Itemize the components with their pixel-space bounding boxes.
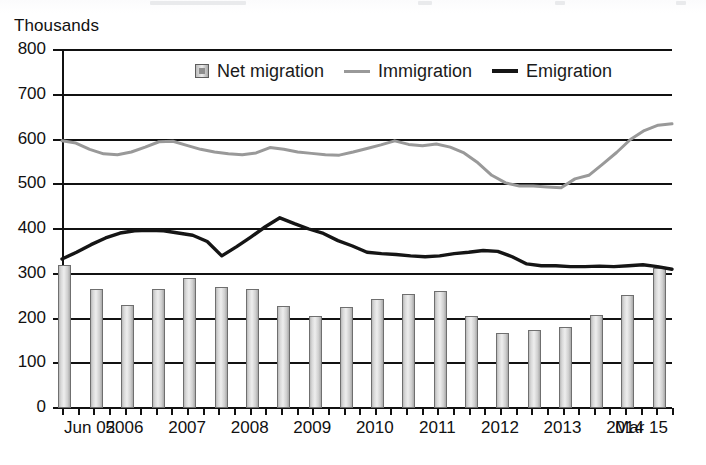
x-tick-q31 [547, 408, 549, 415]
x-tick-q21 [390, 408, 392, 415]
x-tick-q8 [187, 408, 189, 415]
x-tick-q2 [93, 408, 95, 415]
y-axis-unit-label: Thousands [14, 16, 99, 36]
x-axis-label-2012: 2012 [481, 418, 519, 438]
x-tick-q9 [203, 408, 205, 415]
line-immigration [62, 124, 672, 188]
y-tick-700 [53, 94, 62, 96]
plot-area [62, 50, 672, 408]
x-axis-label-2007: 2007 [168, 418, 206, 438]
x-tick-q5 [140, 408, 142, 415]
x-tick-q20 [375, 408, 377, 415]
y-axis-label-700: 700 [0, 84, 46, 104]
x-tick-q24 [437, 408, 439, 415]
x-tick-q17 [328, 408, 330, 415]
line-series-layer [62, 50, 672, 408]
x-axis-label-2008: 2008 [231, 418, 269, 438]
x-tick-q29 [516, 408, 518, 415]
x-tick-q25 [453, 408, 455, 415]
x-tick-q28 [500, 408, 502, 415]
page-top-artifact [0, 0, 706, 13]
x-tick-q37 [641, 408, 643, 415]
y-tick-400 [53, 228, 62, 230]
x-tick-q33 [578, 408, 580, 415]
x-tick-q34 [594, 408, 596, 415]
x-tick-q4 [125, 408, 127, 415]
x-tick-q38 [656, 408, 658, 415]
x-tick-q11 [234, 408, 236, 415]
y-axis-label-100: 100 [0, 352, 46, 372]
y-axis-label-0: 0 [0, 397, 46, 417]
x-tick-q36 [625, 408, 627, 415]
line-emigration [62, 218, 672, 269]
x-tick-q18 [344, 408, 346, 415]
y-axis-label-800: 800 [0, 39, 46, 59]
x-tick-q16 [312, 408, 314, 415]
x-tick-q30 [531, 408, 533, 415]
y-axis-label-300: 300 [0, 263, 46, 283]
x-tick-q6 [156, 408, 158, 415]
x-axis-label-mar-15: Mar 15 [615, 418, 668, 438]
y-axis-label-200: 200 [0, 308, 46, 328]
y-axis-label-500: 500 [0, 173, 46, 193]
x-axis-label-2006: 2006 [106, 418, 144, 438]
x-tick-q35 [609, 408, 611, 415]
x-axis-label-2013: 2013 [544, 418, 582, 438]
x-axis-label-2009: 2009 [293, 418, 331, 438]
net-migration-chart: Thousands Net migration Immigration Emig… [0, 0, 706, 465]
x-tick-q26 [469, 408, 471, 415]
y-axis-label-600: 600 [0, 129, 46, 149]
y-tick-500 [53, 183, 62, 185]
x-tick-q39 [672, 408, 674, 415]
x-tick-q23 [422, 408, 424, 415]
x-tick-q0 [62, 408, 64, 415]
x-tick-q3 [109, 408, 111, 415]
x-tick-q14 [281, 408, 283, 415]
x-tick-q15 [297, 408, 299, 415]
x-tick-q27 [484, 408, 486, 415]
x-tick-q10 [218, 408, 220, 415]
x-tick-q19 [359, 408, 361, 415]
x-tick-q12 [250, 408, 252, 415]
x-tick-q7 [171, 408, 173, 415]
x-axis-label-2010: 2010 [356, 418, 394, 438]
x-tick-q22 [406, 408, 408, 415]
y-tick-800 [53, 49, 62, 51]
x-tick-q13 [265, 408, 267, 415]
x-tick-q1 [78, 408, 80, 415]
x-tick-q32 [563, 408, 565, 415]
y-axis-label-400: 400 [0, 218, 46, 238]
x-axis-label-2011: 2011 [419, 418, 456, 438]
